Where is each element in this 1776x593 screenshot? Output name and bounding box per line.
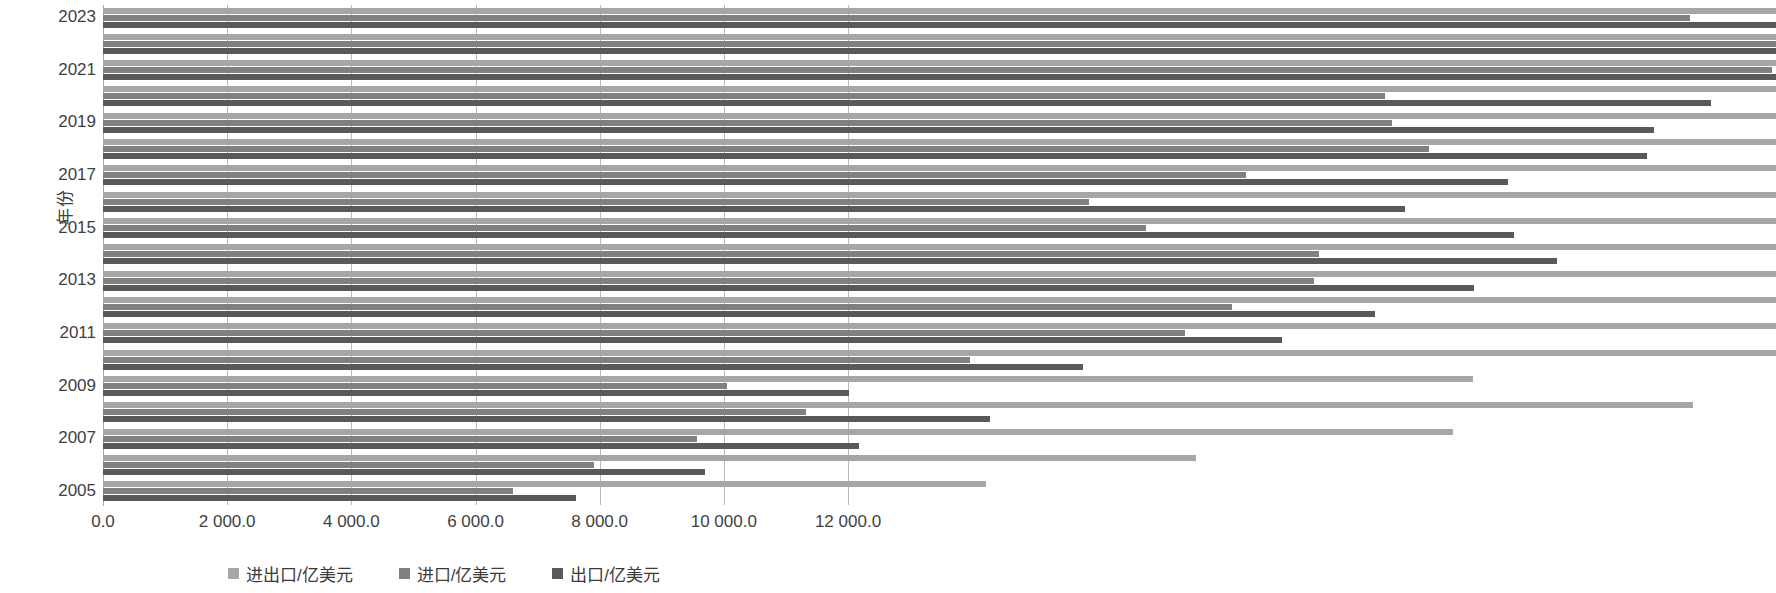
bar-group-2019	[103, 113, 848, 139]
plot-area	[103, 5, 848, 505]
legend-entry-2[interactable]: 出口/亿美元	[552, 561, 660, 586]
bar-2013-export	[103, 285, 1474, 291]
bar-group-2014	[103, 244, 848, 270]
bar-group-2021	[103, 60, 848, 86]
bar-2019-total	[103, 113, 1776, 119]
y-tick-2017: 2017	[16, 165, 96, 185]
bar-group-2007	[103, 429, 848, 455]
bar-2019-export	[103, 127, 1654, 133]
bar-2007-export	[103, 443, 859, 449]
bar-2021-total	[103, 60, 1776, 66]
chart-legend: 进出口/亿美元进口/亿美元出口/亿美元	[0, 558, 888, 588]
bar-group-2016	[103, 192, 848, 218]
bar-2008-import	[103, 409, 806, 415]
bar-group-2020	[103, 86, 848, 112]
bar-2016-import	[103, 199, 1089, 205]
x-axis-tick-labels: 0.02 000.04 000.06 000.08 000.010 000.01…	[0, 512, 888, 540]
bar-2010-import	[103, 357, 970, 363]
bar-2009-export	[103, 390, 849, 396]
bar-group-2009	[103, 376, 848, 402]
x-tick-10000: 10 000.0	[654, 512, 794, 532]
bar-2021-import	[103, 67, 1772, 73]
bar-2017-export	[103, 179, 1508, 185]
bar-2018-total	[103, 139, 1776, 145]
bar-2020-total	[103, 86, 1776, 92]
legend-entry-1[interactable]: 进口/亿美元	[399, 561, 507, 586]
bar-2006-import	[103, 462, 594, 468]
bar-2010-total	[103, 350, 1776, 356]
bar-group-2006	[103, 455, 848, 481]
bar-2013-import	[103, 278, 1314, 284]
y-tick-2023: 2023	[16, 7, 96, 27]
bar-group-2005	[103, 481, 848, 507]
bar-2015-import	[103, 225, 1146, 231]
y-tick-2005: 2005	[16, 481, 96, 501]
bar-group-2011	[103, 323, 848, 349]
bar-2011-import	[103, 330, 1185, 336]
bar-2022-export	[103, 48, 1776, 54]
y-tick-2021: 2021	[16, 60, 96, 80]
bar-2020-import	[103, 93, 1385, 99]
bar-2014-total	[103, 244, 1776, 250]
legend-square-icon	[552, 568, 563, 579]
bar-2018-import	[103, 146, 1429, 152]
bar-2022-import	[103, 41, 1776, 47]
bar-2012-import	[103, 304, 1232, 310]
y-tick-2019: 2019	[16, 112, 96, 132]
bar-group-2022	[103, 34, 848, 60]
bar-group-2010	[103, 350, 848, 376]
bar-2017-total	[103, 165, 1776, 171]
bar-group-2013	[103, 271, 848, 297]
bar-2016-export	[103, 206, 1405, 212]
y-tick-2009: 2009	[16, 376, 96, 396]
bar-2014-import	[103, 251, 1319, 257]
bar-2023-total	[103, 8, 1776, 14]
x-tick-2000: 2 000.0	[157, 512, 297, 532]
legend-label-2: 出口/亿美元	[570, 561, 660, 586]
bar-group-2008	[103, 402, 848, 428]
bar-group-2012	[103, 297, 848, 323]
legend-square-icon	[228, 568, 239, 579]
bar-2006-total	[103, 455, 1196, 461]
bar-2007-import	[103, 436, 697, 442]
bar-2009-import	[103, 383, 727, 389]
bar-2015-total	[103, 218, 1776, 224]
bar-2023-import	[103, 15, 1690, 21]
bar-2012-total	[103, 297, 1776, 303]
bar-2014-export	[103, 258, 1557, 264]
x-tick-4000: 4 000.0	[281, 512, 421, 532]
bar-2016-total	[103, 192, 1776, 198]
y-tick-2007: 2007	[16, 428, 96, 448]
bar-2010-export	[103, 364, 1083, 370]
y-axis-tick-labels: 2005200720092011201320152017201920212023	[10, 5, 96, 505]
bar-2015-export	[103, 232, 1514, 238]
legend-square-icon	[399, 568, 410, 579]
bar-2005-import	[103, 488, 513, 494]
bar-2011-export	[103, 337, 1282, 343]
x-tick-6000: 6 000.0	[406, 512, 546, 532]
bar-group-2018	[103, 139, 848, 165]
bar-2020-export	[103, 100, 1711, 106]
bar-2023-export	[103, 22, 1776, 28]
y-tick-2013: 2013	[16, 270, 96, 290]
bar-2006-export	[103, 469, 705, 475]
x-tick-12000: 12 000.0	[778, 512, 918, 532]
y-tick-2015: 2015	[16, 218, 96, 238]
bar-2011-total	[103, 323, 1776, 329]
bar-2009-total	[103, 376, 1473, 382]
bar-2008-export	[103, 416, 990, 422]
legend-label-0: 进出口/亿美元	[246, 561, 353, 586]
bar-group-2017	[103, 165, 848, 191]
bar-2008-total	[103, 402, 1693, 408]
legend-entry-0[interactable]: 进出口/亿美元	[228, 561, 353, 586]
bar-2018-export	[103, 153, 1647, 159]
bar-2012-export	[103, 311, 1375, 317]
bar-2021-export	[103, 74, 1776, 80]
legend-label-1: 进口/亿美元	[417, 561, 507, 586]
x-tick-8000: 8 000.0	[530, 512, 670, 532]
y-tick-2011: 2011	[16, 323, 96, 343]
x-tick-0: 0.0	[33, 512, 173, 532]
bar-2007-total	[103, 429, 1453, 435]
bar-2005-total	[103, 481, 986, 487]
